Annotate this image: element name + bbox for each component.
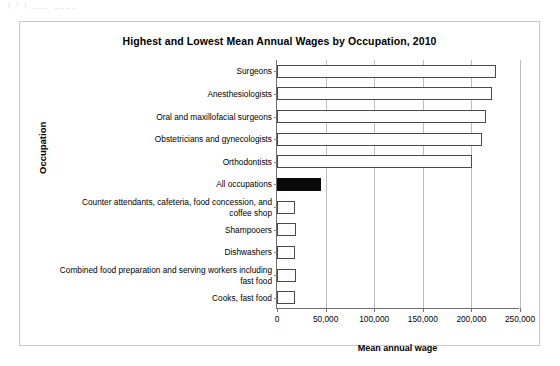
x-axis-tick-label: 200,000: [456, 314, 486, 324]
x-axis-tick-label: 150,000: [408, 314, 438, 324]
bar: [277, 291, 295, 304]
bar-row: Orthodontists: [277, 151, 519, 174]
bar-row: Anesthesiologists: [277, 83, 519, 106]
bar-row: Oral and maxillofacial surgeons: [277, 105, 519, 128]
x-axis-tick: [520, 308, 521, 312]
category-label: Orthodontists: [22, 157, 272, 168]
faint-page-header: ( / ) ___ ____: [8, 1, 78, 8]
bar-row: All occupations: [277, 173, 519, 196]
category-label: Obstetricians and gynecologists: [22, 134, 272, 145]
chart-container: Highest and Lowest Mean Annual Wages by …: [19, 21, 540, 346]
bar-row: Shampooers: [277, 218, 519, 241]
bar-row: Surgeons: [277, 60, 519, 83]
bar: [277, 155, 472, 168]
x-axis-tick: [471, 308, 472, 312]
category-label: Counter attendants, cafeteria, food conc…: [22, 197, 272, 218]
x-axis-tick: [326, 308, 327, 312]
bar: [277, 201, 295, 214]
bar-row: Obstetricians and gynecologists: [277, 128, 519, 151]
category-label: All occupations: [22, 179, 272, 190]
category-label: Shampooers: [22, 225, 272, 236]
bar: [277, 246, 295, 259]
x-axis-tick-label: 100,000: [359, 314, 389, 324]
bar: [277, 223, 296, 236]
plot-area: SurgeonsAnesthesiologistsOral and maxill…: [276, 60, 519, 309]
category-label: Cooks, fast food: [22, 292, 272, 303]
bar-row: Combined food preparation and serving wo…: [277, 264, 519, 287]
x-axis-tick: [423, 308, 424, 312]
bar: [277, 65, 496, 78]
bar-row: Counter attendants, cafeteria, food conc…: [277, 196, 519, 219]
x-axis-tick-label: 0: [275, 314, 280, 324]
category-label: Dishwashers: [22, 247, 272, 258]
category-label: Oral and maxillofacial surgeons: [22, 111, 272, 122]
bar-row: Dishwashers: [277, 241, 519, 264]
category-label: Anesthesiologists: [22, 89, 272, 100]
x-axis-title: Mean annual wage: [276, 343, 519, 353]
x-axis-tick-label: 250,000: [505, 314, 535, 324]
bar: [277, 87, 492, 100]
bar: [277, 110, 486, 123]
x-axis-tick-label: 50,000: [313, 314, 338, 324]
bar-row: Cooks, fast food: [277, 286, 519, 309]
x-axis-tick: [277, 308, 278, 312]
gridline: [520, 60, 521, 308]
bar: [277, 133, 482, 146]
chart-title: Highest and Lowest Mean Annual Wages by …: [20, 35, 539, 47]
category-label: Surgeons: [22, 66, 272, 77]
bar: [277, 269, 296, 282]
bar: [277, 178, 321, 191]
x-axis-tick: [374, 308, 375, 312]
category-label: Combined food preparation and serving wo…: [22, 265, 272, 286]
